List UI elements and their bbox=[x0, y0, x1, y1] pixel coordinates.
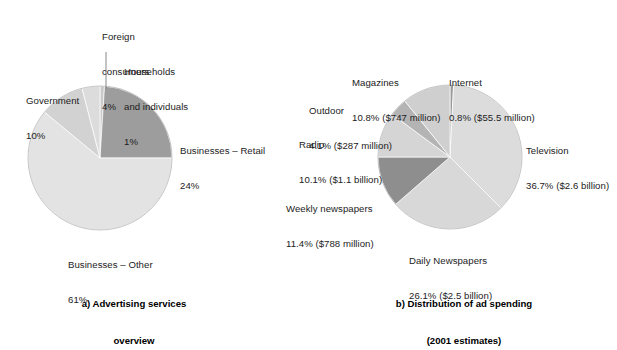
label-weekly-newspapers-line2: 11.4% ($788 million) bbox=[286, 238, 374, 250]
label-foreign-consumers-line1: Foreign bbox=[102, 31, 149, 43]
label-daily-newspapers-line1: Daily Newspapers bbox=[409, 255, 492, 267]
label-television-line2: 36.7% ($2.6 billion) bbox=[526, 180, 609, 192]
label-businesses-other-line1: Businesses – Other bbox=[68, 259, 153, 271]
label-businesses-retail-line1: Businesses – Retail bbox=[180, 145, 265, 157]
caption-panel-a: a) Advertising services overview bbox=[34, 274, 234, 350]
label-internet-line2: 0.8% ($55.5 million) bbox=[449, 112, 535, 124]
label-government-line1: Government bbox=[26, 95, 79, 107]
label-government: Government 10% bbox=[26, 72, 79, 165]
label-households-line2: and individuals bbox=[124, 101, 188, 113]
label-households-and-individuals: Households and individuals 1% bbox=[124, 43, 188, 171]
label-internet-line1: Internet bbox=[449, 77, 535, 89]
label-households-line3: 1% bbox=[124, 136, 188, 148]
label-radio-line1: Radio bbox=[299, 139, 382, 151]
caption-panel-b-line2: (2001 estimates) bbox=[354, 335, 574, 347]
label-television: Television 36.7% ($2.6 billion) bbox=[526, 122, 609, 215]
label-businesses-retail: Businesses – Retail 24% bbox=[180, 122, 265, 215]
label-government-line2: 10% bbox=[26, 130, 79, 142]
panel-advertising-services-overview: Foreign consumers 4% Households and indi… bbox=[0, 0, 308, 309]
caption-panel-b-line1: b) Distribution of ad spending bbox=[354, 298, 574, 310]
caption-panel-a-line1: a) Advertising services bbox=[34, 298, 234, 310]
label-weekly-newspapers: Weekly newspapers 11.4% ($788 million) bbox=[286, 180, 374, 273]
panel-distribution-of-ad-spending: Magazines 10.8% ($747 million) Internet … bbox=[308, 0, 617, 309]
caption-panel-b: b) Distribution of ad spending (2001 est… bbox=[354, 274, 574, 350]
label-weekly-newspapers-line1: Weekly newspapers bbox=[286, 203, 374, 215]
label-households-line1: Households bbox=[124, 66, 188, 78]
label-television-line1: Television bbox=[526, 145, 609, 157]
label-internet: Internet 0.8% ($55.5 million) bbox=[449, 54, 535, 147]
label-businesses-retail-line2: 24% bbox=[180, 180, 265, 192]
caption-panel-a-line2: overview bbox=[34, 335, 234, 347]
